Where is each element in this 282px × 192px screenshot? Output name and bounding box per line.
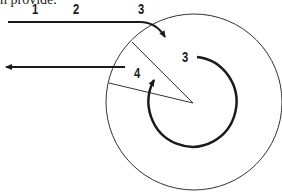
- outer-circle: [106, 14, 282, 190]
- incoming-arrow: [8, 22, 165, 37]
- label-3-inner: 3: [182, 49, 188, 65]
- label-2: 2: [73, 1, 79, 17]
- diagram-canvas: [0, 0, 282, 192]
- label-3-top: 3: [138, 1, 144, 17]
- label-1: 1: [32, 1, 38, 17]
- label-4-wedge: 4: [134, 65, 140, 81]
